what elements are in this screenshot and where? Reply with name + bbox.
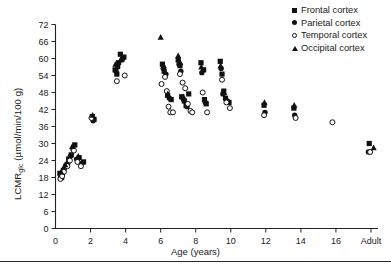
data-point-open-circle <box>114 79 119 84</box>
data-point-open-circle <box>177 72 182 77</box>
x-tick-label: 2 <box>88 236 93 246</box>
data-points-group <box>57 34 376 181</box>
y-axis-label-units: (µmol/min/100 g) <box>12 88 23 164</box>
y-tick-label: 0 <box>43 224 48 234</box>
data-point-open-circle <box>170 110 175 115</box>
data-point-open-circle <box>330 120 335 125</box>
data-point-filled-circle <box>199 70 204 75</box>
data-point-open-circle <box>185 101 190 106</box>
y-tick-label: 6 <box>43 207 48 217</box>
y-tick-label: 66 <box>38 37 48 47</box>
data-point-open-circle <box>75 159 80 164</box>
legend-label-frontal-cortex: Frontal cortex <box>301 5 358 15</box>
data-point-filled-square <box>219 71 224 76</box>
figure-scatter-lcmrglc-vs-age: 0612182430364248546066720246810121416Adu… <box>0 0 391 269</box>
legend-item-occipital-cortex: Occipital cortex <box>288 42 367 55</box>
x-tick-label: 8 <box>193 236 198 246</box>
x-tick-label: 12 <box>261 236 271 246</box>
x-tick-label: 16 <box>331 236 341 246</box>
legend: Frontal cortex Parietal cortex Temporal … <box>288 4 367 54</box>
data-point-filled-triangle <box>175 52 181 58</box>
data-point-open-circle <box>78 164 83 169</box>
data-point-open-circle <box>190 110 195 115</box>
data-point-open-circle <box>224 100 229 105</box>
data-point-open-circle <box>67 158 72 163</box>
x-tick-label: Adult <box>361 236 382 246</box>
y-axis-label: LCMRglc (µmol/min/100 g) <box>12 88 23 200</box>
x-tick-label: 6 <box>158 236 163 246</box>
y-tick-label: 30 <box>38 139 48 149</box>
data-point-open-circle <box>200 90 205 95</box>
data-point-open-circle <box>159 82 164 87</box>
data-point-open-circle <box>122 73 127 78</box>
data-point-filled-circle <box>203 100 208 105</box>
filled-circle-icon <box>288 20 301 25</box>
legend-item-parietal-cortex: Parietal cortex <box>288 17 367 30</box>
data-point-filled-triangle <box>261 99 267 105</box>
y-tick-label: 48 <box>38 88 48 98</box>
data-point-open-circle <box>163 74 168 79</box>
data-point-filled-triangle <box>158 34 164 40</box>
y-tick-label: 24 <box>38 156 48 166</box>
legend-item-temporal-cortex: Temporal cortex <box>288 29 367 42</box>
x-tick-label: 14 <box>296 236 306 246</box>
y-tick-label: 12 <box>38 190 48 200</box>
y-axis-label-subscript: glc <box>17 163 24 172</box>
x-tick-label: 0 <box>53 236 58 246</box>
filled-square-icon <box>288 8 301 13</box>
y-tick-label: 54 <box>38 71 48 81</box>
data-point-open-circle <box>180 80 185 85</box>
filled-triangle-icon <box>288 46 301 51</box>
open-circle-icon <box>288 33 301 38</box>
x-tick-label: 4 <box>123 236 128 246</box>
y-tick-label: 18 <box>38 173 48 183</box>
data-point-open-circle <box>262 113 267 118</box>
y-tick-label: 72 <box>38 20 48 30</box>
data-point-open-circle <box>183 86 188 91</box>
y-tick-label: 36 <box>38 122 48 132</box>
data-point-filled-square <box>367 141 372 146</box>
bottom-rule <box>0 261 391 262</box>
data-point-open-circle <box>227 106 232 111</box>
y-tick-label: 60 <box>38 54 48 64</box>
data-point-filled-square <box>186 91 191 96</box>
y-tick-label: 42 <box>38 105 48 115</box>
data-point-open-circle <box>220 77 225 82</box>
legend-label-temporal-cortex: Temporal cortex <box>301 30 367 40</box>
data-point-open-circle <box>293 116 298 121</box>
y-axis-label-main: LCMR <box>12 173 23 200</box>
legend-label-occipital-cortex: Occipital cortex <box>301 43 365 53</box>
x-tick-label: 10 <box>226 236 236 246</box>
legend-item-frontal-cortex: Frontal cortex <box>288 4 367 17</box>
data-point-filled-triangle <box>291 102 297 108</box>
data-point-open-circle <box>205 110 210 115</box>
x-axis-label: Age (years) <box>0 246 391 257</box>
legend-label-parietal-cortex: Parietal cortex <box>301 18 360 28</box>
data-point-open-circle <box>166 104 171 109</box>
